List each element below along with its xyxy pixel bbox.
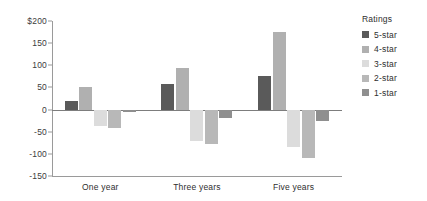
legend-item[interactable]: 2-star bbox=[362, 74, 426, 83]
y-tick-label: 50 bbox=[37, 82, 47, 92]
legend-item-label: 1-star bbox=[374, 88, 397, 98]
bar bbox=[258, 76, 271, 109]
legend-item[interactable]: 5-star bbox=[362, 30, 426, 39]
legend: Ratings 5-star4-star3-star2-star1-star bbox=[362, 14, 426, 103]
y-tick-label: $200 bbox=[27, 16, 47, 26]
legend-swatch-icon bbox=[362, 60, 369, 67]
legend-item-label: 5-star bbox=[374, 30, 397, 40]
bar bbox=[273, 32, 286, 110]
bar bbox=[65, 101, 78, 110]
legend-item[interactable]: 4-star bbox=[362, 45, 426, 54]
x-axis-category-label: Three years bbox=[149, 182, 246, 192]
legend-swatch-icon bbox=[362, 89, 369, 96]
bar-group bbox=[52, 21, 149, 176]
legend-item-label: 4-star bbox=[374, 44, 397, 54]
y-tick-label: 150 bbox=[32, 38, 47, 48]
x-axis-line bbox=[52, 176, 342, 177]
y-axis-labels: $200150100500-50-100-150 bbox=[0, 0, 47, 201]
bar-group bbox=[245, 21, 342, 176]
bar bbox=[108, 110, 121, 129]
legend-swatch-icon bbox=[362, 75, 369, 82]
legend-item-label: 2-star bbox=[374, 73, 397, 83]
legend-swatch-icon bbox=[362, 31, 369, 38]
bar bbox=[287, 110, 300, 148]
bar-chart: $200150100500-50-100-150 One yearThree y… bbox=[0, 0, 427, 201]
y-tick-label: 0 bbox=[42, 105, 47, 115]
bar bbox=[190, 110, 203, 142]
legend-item[interactable]: 1-star bbox=[362, 88, 426, 97]
legend-item-label: 3-star bbox=[374, 59, 397, 69]
legend-swatch-icon bbox=[362, 46, 369, 53]
y-tick-label: -100 bbox=[29, 149, 47, 159]
x-axis-category-label: One year bbox=[52, 182, 149, 192]
legend-title: Ratings bbox=[362, 14, 426, 24]
y-tick-label: 100 bbox=[32, 60, 47, 70]
bar bbox=[302, 110, 315, 159]
bar bbox=[176, 68, 189, 110]
x-axis-category-label: Five years bbox=[245, 182, 342, 192]
bar bbox=[316, 110, 329, 121]
bar bbox=[219, 110, 232, 118]
bar bbox=[205, 110, 218, 145]
y-tick-label: -150 bbox=[29, 171, 47, 181]
plot-area bbox=[52, 21, 342, 176]
bar bbox=[123, 110, 136, 112]
legend-item[interactable]: 3-star bbox=[362, 59, 426, 68]
bar-group bbox=[149, 21, 246, 176]
bar bbox=[94, 110, 107, 127]
y-tick-label: -50 bbox=[34, 127, 47, 137]
bar bbox=[161, 84, 174, 110]
legend-entries: 5-star4-star3-star2-star1-star bbox=[362, 30, 426, 97]
bar bbox=[79, 87, 92, 109]
